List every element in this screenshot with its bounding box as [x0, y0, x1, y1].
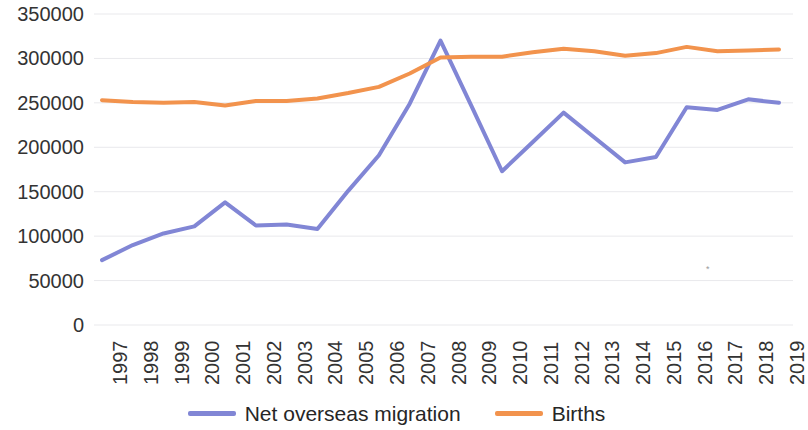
legend-entry[interactable]: Net overseas migration: [188, 403, 461, 424]
legend-color-swatch: [495, 411, 543, 416]
x-axis-tick-label: 2012: [572, 341, 592, 386]
x-axis-tick-label: 2017: [725, 341, 745, 386]
x-axis-tick-label: 2004: [325, 341, 345, 386]
speck-artifact: *: [706, 266, 712, 273]
x-axis-tick-label: 2011: [541, 342, 561, 385]
legend-label: Net overseas migration: [245, 403, 461, 424]
x-axis-tick-label: 2016: [695, 341, 715, 386]
legend-entry[interactable]: Births: [495, 403, 606, 424]
x-axis-tick-label: 1999: [172, 341, 192, 386]
x-axis-tick-label: 1998: [141, 341, 161, 386]
x-axis-tick-label: 2009: [479, 341, 499, 386]
x-axis-tick-label: 2019: [787, 341, 807, 386]
x-axis-tick-label: 2003: [295, 341, 315, 386]
x-axis-tick-label: 2005: [356, 341, 376, 386]
legend-color-swatch: [188, 411, 236, 416]
x-axis-tick-label: 2002: [264, 341, 284, 386]
x-axis-tick-label: 1997: [110, 341, 130, 386]
x-axis-tick-label: 2014: [633, 341, 653, 386]
x-axis-tick-label: 2015: [664, 341, 684, 386]
legend-label: Births: [552, 403, 606, 424]
x-axis-tick-label: 2006: [387, 341, 407, 386]
x-axis-tick-label: 2007: [418, 341, 438, 386]
chart-legend: Net overseas migrationBirths: [0, 396, 793, 430]
x-axis-tick-label: 2000: [202, 341, 222, 386]
x-axis-tick-label: 2008: [449, 341, 469, 386]
x-axis-tick-label: 2018: [756, 341, 776, 386]
x-axis-tick-label: 2013: [602, 341, 622, 386]
x-axis-tick-label: 2001: [233, 341, 253, 386]
x-axis-tick-label: 2010: [510, 341, 530, 386]
